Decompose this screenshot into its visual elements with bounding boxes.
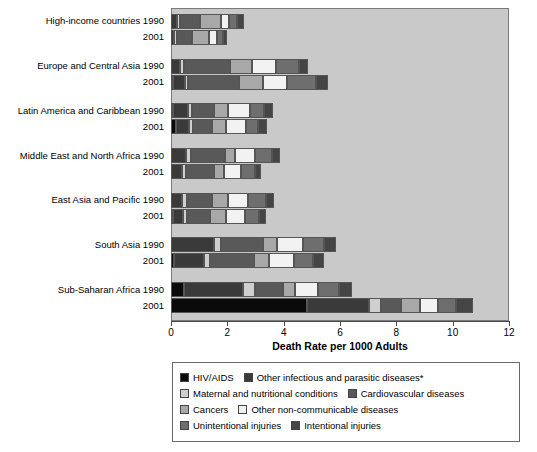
category-label-south-asia-2001: 2001: [143, 256, 164, 266]
bar-segment-unintentional-injuries: [255, 148, 272, 163]
bar-segment-cardiovascular-diseases: [381, 298, 401, 313]
bar-segment-cardiovascular-diseases: [184, 59, 230, 74]
legend-swatch-icon: [238, 405, 247, 414]
bar-latin-america-and-caribbean-1990: [171, 103, 273, 118]
legend-item-other-infectious-and-parasitic-diseases-: Other infectious and parasitic diseases*: [244, 372, 424, 383]
legend-label: Intentional injuries: [304, 420, 381, 431]
bar-segment-intentional-injuries: [223, 30, 227, 45]
x-tick-12: [509, 321, 510, 326]
bar-segment-unintentional-injuries: [241, 164, 255, 179]
bar-segment-cancers: [200, 14, 220, 29]
x-tick-label-6: 6: [325, 327, 355, 338]
bar-segment-intentional-injuries: [316, 75, 328, 90]
legend-label: Unintentional injuries: [193, 420, 281, 431]
bar-high-income-countries-1990: [171, 14, 244, 29]
bar-segment-cancers: [214, 103, 229, 118]
legend-swatch-icon: [180, 421, 189, 430]
bar-segment-cancers: [401, 298, 420, 313]
bar-segment-cancers: [225, 148, 235, 163]
bar-south-asia-2001: [171, 253, 324, 268]
bar-segment-other-infectious-and-parasitic-diseases-: [173, 103, 188, 118]
legend-item-intentional-injuries: Intentional injuries: [291, 420, 381, 431]
legend-item-cardiovascular-diseases: Cardiovascular diseases: [348, 388, 465, 399]
legend-swatch-icon: [244, 373, 253, 382]
bar-segment-unintentional-injuries: [287, 75, 316, 90]
chart-figure: High-income countries 19902001Europe and…: [0, 0, 537, 452]
bar-segment-cardiovascular-diseases: [177, 30, 192, 45]
bar-segment-cardiovascular-diseases: [186, 164, 214, 179]
bar-segment-other-non-communicable-diseases: [209, 30, 217, 45]
bar-europe-and-central-asia-1990: [171, 59, 308, 74]
bar-segment-cancers: [263, 237, 277, 252]
bar-segment-unintentional-injuries: [248, 193, 265, 208]
bar-sub-saharan-africa-2001: [171, 298, 473, 313]
x-tick-label-4: 4: [269, 327, 299, 338]
x-tick-0: [171, 321, 172, 326]
bar-segment-other-infectious-and-parasitic-diseases-: [171, 148, 186, 163]
bar-segment-other-infectious-and-parasitic-diseases-: [174, 253, 204, 268]
bar-middle-east-and-north-africa-1990: [171, 148, 280, 163]
category-label-east-asia-and-pacific-2001: 2001: [143, 211, 164, 221]
bar-segment-unintentional-injuries: [438, 298, 456, 313]
legend-label: Cardiovascular diseases: [361, 388, 465, 399]
bar-segment-other-infectious-and-parasitic-diseases-: [176, 119, 189, 134]
category-label-latin-america-and-caribbean-2001: 2001: [143, 122, 164, 132]
x-tick-2: [227, 321, 228, 326]
category-label-sub-saharan-africa-1990: Sub-Saharan Africa 1990: [58, 285, 164, 295]
bar-segment-other-infectious-and-parasitic-diseases-: [184, 282, 243, 297]
bar-europe-and-central-asia-2001: [171, 75, 328, 90]
legend-item-maternal-and-nutritional-conditions: Maternal and nutritional conditions: [180, 388, 338, 399]
bar-segment-other-non-communicable-diseases: [228, 103, 249, 118]
legend-swatch-icon: [291, 421, 300, 430]
category-label-europe-and-central-asia-1990: Europe and Central Asia 1990: [37, 61, 164, 71]
bar-segment-intentional-injuries: [272, 148, 280, 163]
bar-segment-intentional-injuries: [259, 209, 267, 224]
bar-segment-other-infectious-and-parasitic-diseases-: [171, 164, 182, 179]
legend-swatch-icon: [180, 405, 189, 414]
bar-segment-intentional-injuries: [266, 193, 274, 208]
category-label-south-asia-1990: South Asia 1990: [95, 240, 164, 250]
bar-segment-other-infectious-and-parasitic-diseases-: [171, 59, 180, 74]
legend-swatch-icon: [348, 389, 357, 398]
bars-layer: [171, 8, 509, 321]
x-tick-label-0: 0: [156, 327, 186, 338]
bar-segment-cardiovascular-diseases: [192, 103, 213, 118]
bar-segment-other-non-communicable-diseases: [263, 75, 287, 90]
legend-label: Other non-communicable diseases: [251, 404, 398, 415]
bar-segment-intentional-injuries: [237, 14, 243, 29]
legend-label: HIV/AIDS: [193, 372, 234, 383]
bar-segment-cancers: [214, 164, 224, 179]
bar-segment-cancers: [254, 253, 269, 268]
bar-segment-unintentional-injuries: [245, 209, 259, 224]
bar-segment-cancers: [212, 119, 226, 134]
bar-segment-unintentional-injuries: [246, 119, 258, 134]
legend-row-2: Maternal and nutritional conditionsCardi…: [180, 385, 512, 401]
bar-segment-other-non-communicable-diseases: [235, 148, 255, 163]
bar-segment-cardiovascular-diseases: [180, 14, 200, 29]
x-tick-10: [453, 321, 454, 326]
bar-segment-other-infectious-and-parasitic-diseases-: [171, 237, 214, 252]
category-label-high-income-countries-2001: 2001: [143, 32, 164, 42]
bar-segment-cardiovascular-diseases: [187, 209, 210, 224]
legend-row-4: Unintentional injuriesIntentional injuri…: [180, 417, 512, 433]
category-axis-labels: High-income countries 19902001Europe and…: [0, 8, 168, 321]
bar-east-asia-and-pacific-2001: [171, 209, 266, 224]
category-label-high-income-countries-1990: High-income countries 1990: [46, 16, 164, 26]
legend-row-3: CancersOther non-communicable diseases: [180, 401, 512, 417]
bar-segment-cancers: [239, 75, 263, 90]
bar-segment-cancers: [283, 282, 295, 297]
bar-segment-hiv-aids: [171, 298, 307, 313]
bar-segment-other-non-communicable-diseases: [226, 119, 246, 134]
bar-segment-other-non-communicable-diseases: [221, 14, 229, 29]
legend-label: Other infectious and parasitic diseases*: [257, 372, 424, 383]
bar-segment-other-infectious-and-parasitic-diseases-: [307, 298, 369, 313]
bar-segment-intentional-injuries: [255, 164, 261, 179]
bar-segment-unintentional-injuries: [318, 282, 339, 297]
bar-segment-cardiovascular-diseases: [193, 119, 212, 134]
bar-segment-unintentional-injuries: [276, 59, 299, 74]
bar-segment-other-non-communicable-diseases: [252, 59, 276, 74]
bar-segment-cancers: [192, 30, 209, 45]
chart-legend: HIV/AIDSOther infectious and parasitic d…: [172, 362, 520, 442]
bar-segment-intentional-injuries: [339, 282, 352, 297]
legend-row-1: HIV/AIDSOther infectious and parasitic d…: [180, 369, 512, 385]
